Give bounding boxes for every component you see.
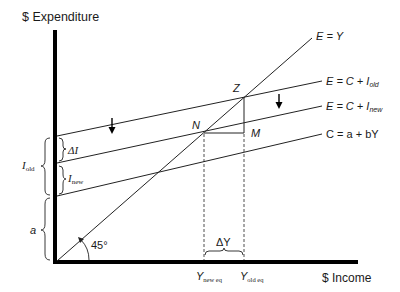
consumption-line [57, 134, 322, 196]
consumption-label: C = a + bY [326, 128, 379, 140]
a-label: a [30, 224, 36, 236]
x-axis [53, 260, 358, 264]
i-new-label: Inew [67, 172, 84, 186]
axes [53, 30, 358, 264]
down-arrow-icon [276, 94, 283, 109]
e-equals-y-label: E = Y [316, 30, 344, 42]
keynesian-cross-diagram: $ Expenditure $ Income E = Y E = C + Iol… [0, 0, 400, 292]
delta-y-brace [205, 248, 243, 255]
y-axis-label: $ Expenditure [22, 10, 99, 24]
x-axis-label: $ Income [322, 271, 372, 285]
down-arrow-icon [109, 118, 116, 134]
point-n-label: N [192, 119, 200, 131]
delta-y-label: ΔY [216, 236, 231, 248]
e-c-i-new-line [57, 106, 322, 163]
delta-i-brace [59, 138, 66, 161]
y-axis [53, 30, 57, 264]
i-new-brace [59, 166, 66, 194]
angle-arc [81, 240, 89, 260]
a-brace [41, 198, 50, 260]
e-c-i-old-line [57, 81, 322, 136]
e-c-i-old-label: E = C + Iold [326, 75, 380, 88]
y-old-eq-label: Yold eq [240, 270, 264, 283]
e-c-i-new-label: E = C + Inew [326, 100, 383, 113]
y-new-eq-label: Ynew eq [196, 270, 223, 283]
i-old-brace [41, 138, 50, 195]
i-old-label: Iold [21, 159, 35, 173]
delta-i-label: ΔI [67, 144, 79, 156]
e-equals-y-line [57, 38, 312, 261]
point-m-label: M [251, 127, 261, 139]
angle-label: 45° [91, 239, 108, 251]
point-z-label: Z [232, 82, 241, 94]
